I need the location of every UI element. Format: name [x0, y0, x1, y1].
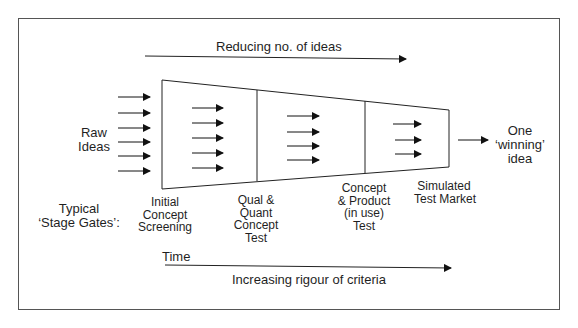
reducing-ideas-arrow-icon	[145, 56, 406, 59]
stage1-arrows-icon	[192, 108, 223, 168]
stage3-arrows-icon	[393, 124, 421, 154]
stage-gate-qual-quant-concept-test: Qual & Quant Concept Test	[228, 194, 284, 244]
funnel-shape	[162, 80, 449, 189]
stage-gate-simulated-test-market: Simulated Test Market	[414, 180, 474, 205]
raw-ideas-arrows-icon	[118, 97, 150, 171]
stage-gate-concept-product-test: Concept & Product (in use) Test	[333, 182, 395, 232]
time-arrow-icon	[165, 265, 451, 268]
stage-gates-heading: Typical ‘Stage Gates’:	[38, 202, 120, 230]
winning-idea-label: One ‘winning’ idea	[492, 124, 548, 166]
reducing-ideas-label: Reducing no. of ideas	[216, 40, 342, 54]
time-label: Time	[162, 250, 190, 264]
raw-ideas-label: Raw Ideas	[72, 126, 116, 154]
increasing-rigour-label: Increasing rigour of criteria	[232, 273, 386, 287]
stage2-arrows-icon	[287, 116, 319, 160]
stage-gate-initial-concept-screening: Initial Concept Screening	[136, 196, 194, 234]
